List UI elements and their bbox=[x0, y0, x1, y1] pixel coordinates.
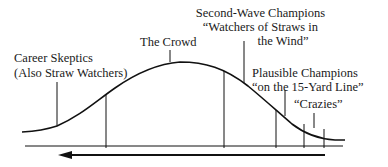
label-second-wave-line3: the Wind” bbox=[258, 34, 309, 48]
label-plausible-line2: “on the 15-Yard Line” bbox=[252, 80, 364, 94]
label-plausible-champions: Plausible Champions “on the 15-Yard Line… bbox=[252, 66, 364, 94]
label-career-skeptics: Career Skeptics (Also Straw Watchers) bbox=[14, 51, 127, 80]
label-crazies: “Crazies” bbox=[294, 97, 343, 111]
label-the-crowd-line1: The Crowd bbox=[140, 35, 197, 49]
label-the-crowd: The Crowd bbox=[140, 35, 197, 49]
label-career-skeptics-line1: Career Skeptics bbox=[14, 51, 93, 65]
label-second-wave-line1: Second-Wave Champions bbox=[196, 6, 325, 20]
label-second-wave-line2: “Watchers of Straws in bbox=[203, 20, 319, 34]
label-plausible-line1: Plausible Champions bbox=[252, 66, 358, 80]
label-second-wave-champions: Second-Wave Champions “Watchers of Straw… bbox=[196, 6, 328, 48]
arrow-left-icon bbox=[58, 151, 72, 159]
label-crazies-line1: “Crazies” bbox=[294, 97, 343, 111]
label-career-skeptics-line2: (Also Straw Watchers) bbox=[14, 66, 127, 80]
adoption-curve-diagram: Career Skeptics (Also Straw Watchers) Th… bbox=[0, 0, 388, 167]
